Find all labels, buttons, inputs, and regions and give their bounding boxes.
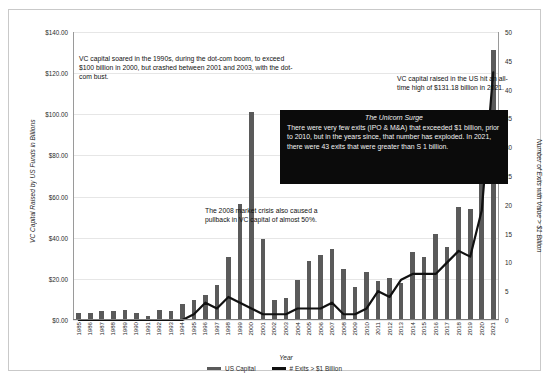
y-axis-right-title: Number of Exits with Value > $1 Billion: [533, 96, 545, 296]
y-axis-right-tick: 15: [505, 230, 512, 237]
x-axis-tick-label: 2004: [295, 322, 301, 336]
legend-item[interactable]: # Exits > $1 Billion: [272, 365, 342, 372]
y-axis-left-tick: $140.00: [45, 29, 68, 36]
y-axis-right-tick: 5: [505, 288, 509, 295]
y-axis-right-tick: 0: [505, 317, 509, 324]
x-axis-tick-label: 1993: [168, 322, 174, 336]
y-axis-right-tick: 10: [505, 259, 512, 266]
y-axis-left-line: [73, 32, 74, 320]
callout-body: There were very few exits (IPO & M&A) th…: [287, 123, 501, 151]
x-axis-tick-label: 2017: [444, 322, 450, 336]
x-axis-tick-label: 1999: [237, 322, 243, 336]
y-axis-right-tick: 45: [505, 57, 512, 64]
y-axis-left-tick: $40.00: [49, 234, 68, 241]
x-axis-tick-label: 1990: [133, 322, 139, 336]
x-axis-tick-labels: 1985198619871988198919901991199219931994…: [73, 322, 499, 356]
x-axis-tick-label: 2001: [260, 322, 266, 336]
x-axis-tick-label: 2011: [375, 322, 381, 335]
x-axis-tick-label: 2005: [306, 322, 312, 336]
x-axis-tick-label: 1998: [225, 322, 231, 336]
y-axis-left-tick: $80.00: [49, 152, 68, 159]
y-axis-right-tick: 20: [505, 201, 512, 208]
legend-swatch: [207, 367, 221, 370]
y-axis-left-tick: $0.00: [52, 317, 68, 324]
x-axis-tick-label: 2003: [283, 322, 289, 336]
y-axis-left-tick: $100.00: [45, 111, 68, 118]
x-axis-tick-label: 1992: [156, 322, 162, 336]
legend-label: US Capital: [225, 365, 256, 372]
annotation-dotcom: VC capital soared in the 1990s, during t…: [79, 54, 299, 82]
x-axis-tick-label: 1994: [179, 322, 185, 336]
y-axis-left-tick: $60.00: [49, 193, 68, 200]
x-axis-tick-label: 1987: [99, 322, 105, 336]
y-axis-right-tick: 50: [505, 29, 512, 36]
x-axis-tick-label: 2007: [329, 322, 335, 336]
chart-legend: US Capital# Exits > $1 Billion: [9, 365, 540, 372]
x-axis-tick-label: 2006: [318, 322, 324, 336]
x-axis-tick-label: 1996: [202, 322, 208, 336]
y-axis-left-tick: $20.00: [49, 275, 68, 282]
x-axis-tick-label: 2008: [341, 322, 347, 336]
x-axis-tick-label: 1986: [87, 322, 93, 336]
x-axis-tick-label: 2021: [490, 322, 496, 336]
legend-item[interactable]: US Capital: [207, 365, 256, 372]
legend-label: # Exits > $1 Billion: [290, 365, 342, 372]
y-axis-left-title: VC Capital Raised by US Funds in Billion…: [26, 66, 38, 296]
x-axis-tick-label: 2013: [398, 322, 404, 336]
x-axis-tick-label: 2018: [456, 322, 462, 336]
x-axis-tick-label: 1995: [191, 322, 197, 336]
x-axis-tick-label: 1989: [122, 322, 128, 336]
x-axis-tick-label: 1988: [110, 322, 116, 336]
x-axis-tick-label: 2000: [248, 322, 254, 336]
x-axis-tick-label: 2015: [421, 322, 427, 336]
x-axis-tick-label: 2020: [479, 322, 485, 336]
y-axis-left-tick: $120.00: [45, 70, 68, 77]
legend-swatch: [272, 367, 286, 370]
x-axis-tick-label: 1997: [214, 322, 220, 336]
x-axis-tick-label: 2010: [364, 322, 370, 336]
x-axis-tick-label: 2002: [271, 322, 277, 336]
chart-frame: VC Capital Raised by US Funds in Billion…: [8, 9, 541, 371]
x-axis-line: [73, 319, 499, 320]
x-axis-tick-label: 2019: [467, 322, 473, 336]
x-axis-title: Year: [73, 354, 499, 361]
x-axis-tick-label: 1991: [145, 322, 151, 336]
x-axis-tick-label: 2009: [352, 322, 358, 336]
x-axis-tick-label: 2012: [387, 322, 393, 336]
x-axis-tick-label: 2016: [433, 322, 439, 336]
x-axis-tick-label: 2014: [410, 322, 416, 336]
x-axis-tick-label: 1985: [76, 322, 82, 336]
callout-title: The Unicorn Surge: [287, 114, 501, 121]
annotation-all-time-high: VC capital raised in the US hit an all-t…: [397, 74, 517, 92]
callout-unicorn-surge: The Unicorn Surge There were very few ex…: [280, 110, 508, 184]
annotation-2008-crisis: The 2008 market crisis also caused a pul…: [205, 206, 335, 224]
